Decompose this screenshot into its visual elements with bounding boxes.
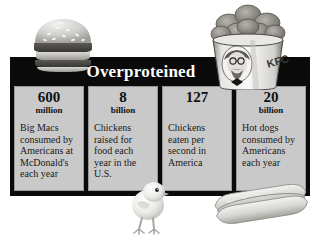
- stat-description: Big Macs consumed by Americans at McDona…: [15, 122, 83, 180]
- stat-panel-row: 600 million Big Macs consumed by America…: [14, 86, 306, 191]
- stat-number: 20: [264, 90, 279, 105]
- stat-description: Chickens raised for food each year in th…: [89, 122, 157, 180]
- stat-panel-big-macs: 600 million Big Macs consumed by America…: [14, 86, 84, 191]
- stat-number: 127: [186, 90, 209, 105]
- overproteined-infographic: Overproteined: [0, 0, 323, 241]
- stat-panel-chickens-per-second: 127 Chickens eaten per second in America: [162, 86, 232, 191]
- stat-number: 8: [119, 90, 127, 105]
- stat-unit: billion: [111, 105, 136, 116]
- stat-description: Chickens eaten per second in America: [163, 122, 231, 168]
- stat-panel-hot-dogs: 20 billion Hot dogs consumed by American…: [236, 86, 306, 191]
- stat-number: 600: [38, 90, 61, 105]
- stat-description: Hot dogs consumed by Americans each year: [237, 122, 305, 168]
- stat-unit: billion: [259, 105, 284, 116]
- stat-panel-chickens-raised: 8 billion Chickens raised for food each …: [88, 86, 158, 191]
- stat-unit: million: [35, 105, 62, 116]
